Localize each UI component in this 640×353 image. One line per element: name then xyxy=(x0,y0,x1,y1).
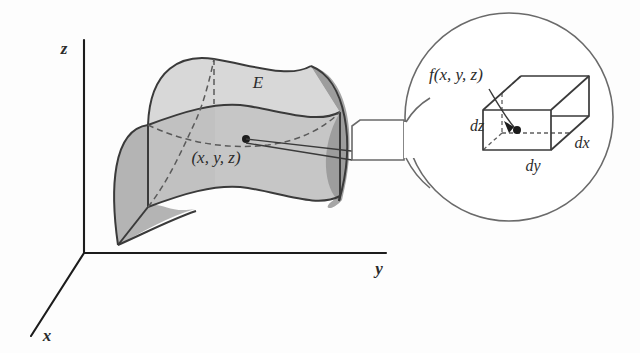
callout-tail-mask xyxy=(404,122,424,158)
solid-label-e: E xyxy=(252,73,264,92)
triple-integral-figure: z y x xyxy=(0,0,640,353)
callout-tail xyxy=(352,120,404,160)
x-axis-label: x xyxy=(42,326,52,345)
cube-center-dot xyxy=(513,126,521,134)
solid-right-corner-edge xyxy=(339,196,340,201)
magnifier-callout: f(x, y, z) dz dy dx xyxy=(404,13,613,221)
dz-label: dz xyxy=(470,117,485,134)
callout-circle xyxy=(405,13,613,221)
function-label: f(x, y, z) xyxy=(429,65,483,84)
solid-point-label: (x, y, z) xyxy=(191,148,240,167)
dx-label: dx xyxy=(574,134,589,151)
figure-canvas: z y x xyxy=(0,0,640,353)
solid-region-e: E (x, y, z) xyxy=(114,58,350,245)
z-axis-label: z xyxy=(60,39,68,58)
x-axis-line xyxy=(31,253,84,336)
dy-label: dy xyxy=(525,157,541,175)
y-axis-label: y xyxy=(373,259,383,278)
